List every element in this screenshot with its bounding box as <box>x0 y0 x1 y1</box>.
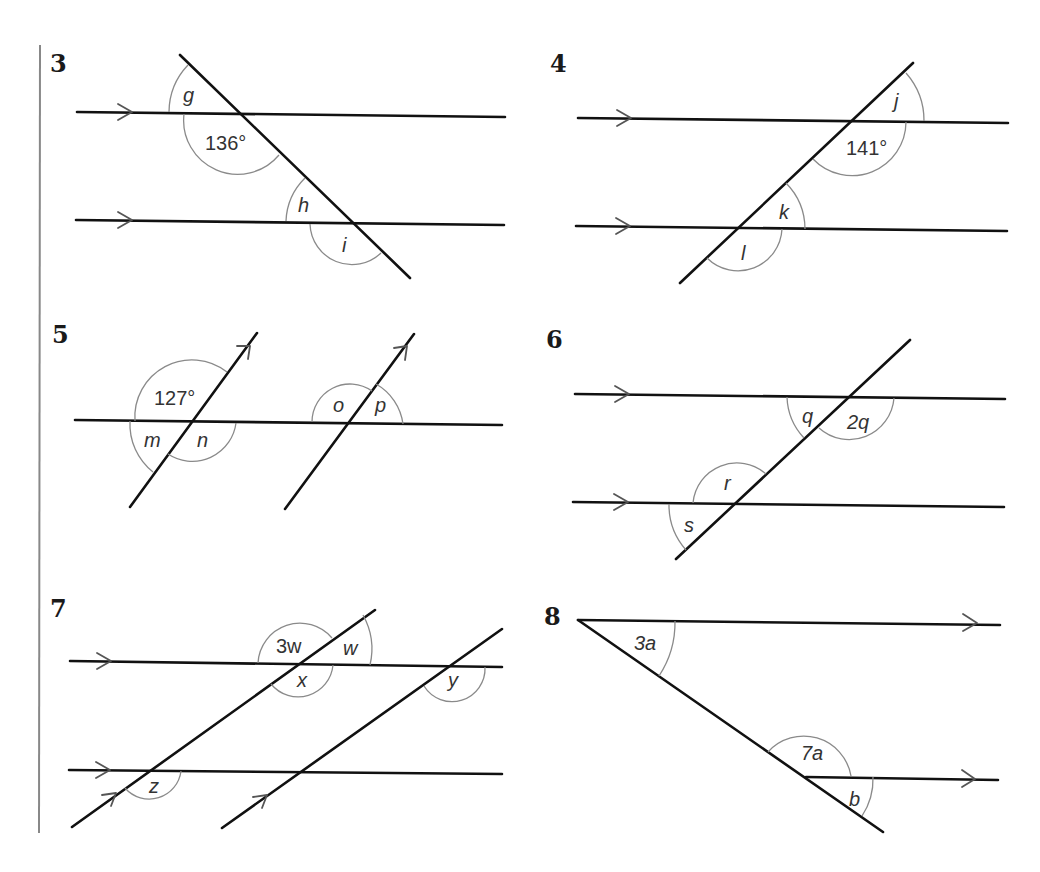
angle-label-l: l <box>741 242 746 264</box>
question-6: 6 q 2q r s <box>546 325 1005 559</box>
angle-label-given: 127° <box>154 387 195 409</box>
angle-arc-w <box>363 615 372 665</box>
parallel-arrow-icon <box>963 614 977 631</box>
angle-label-x: x <box>296 669 308 691</box>
horizontal-line <box>75 420 502 425</box>
angle-label-k: k <box>779 201 790 223</box>
question-number: 3 <box>50 49 67 78</box>
ray-top <box>578 620 1000 625</box>
parallel-line-top <box>575 394 1005 399</box>
angle-label-given: 136° <box>205 132 246 154</box>
angle-label-7a: 7a <box>801 742 823 764</box>
parallel-line-bottom <box>69 770 502 774</box>
question-number: 4 <box>550 49 567 78</box>
angle-label-i: i <box>342 234 347 256</box>
angle-label-3w: 3w <box>276 635 302 657</box>
angle-arc-3a <box>659 621 675 676</box>
question-number: 5 <box>52 320 69 349</box>
question-number: 6 <box>546 325 563 354</box>
transversal <box>578 620 883 832</box>
angle-label-given: 141° <box>846 137 887 159</box>
angle-arc-b <box>862 777 873 816</box>
transversal-left <box>72 610 375 827</box>
angle-label-j: j <box>891 90 899 112</box>
angle-label-y: y <box>446 669 459 691</box>
angle-label-2q: 2q <box>846 411 869 433</box>
angle-label-n: n <box>197 429 208 451</box>
angle-label-z: z <box>148 775 159 797</box>
transversal <box>180 55 410 278</box>
angle-label-w: w <box>343 637 359 659</box>
transversal <box>676 340 910 559</box>
angle-label-q: q <box>802 405 813 427</box>
question-4: 4 j 141° k l <box>550 49 1008 283</box>
parallel-line-top <box>578 118 1008 123</box>
question-8: 8 3a 7a b <box>544 602 1000 832</box>
parallel-line-bottom <box>576 226 1007 231</box>
parallel-line-bottom <box>573 502 1004 507</box>
question-5: 5 127° m n o p <box>52 320 502 509</box>
parallel-line-top <box>77 112 505 117</box>
margin-bar <box>39 45 40 833</box>
question-7: 7 3w w x y z <box>50 594 502 828</box>
transversal-right <box>222 629 502 828</box>
angle-label-o: o <box>333 394 344 416</box>
angle-label-s: s <box>684 514 694 536</box>
transversal <box>680 63 913 283</box>
ray-bottom <box>806 777 998 780</box>
angle-label-m: m <box>144 429 161 451</box>
question-number: 8 <box>544 602 561 631</box>
exercise-page: 3 g 136° h i 4 j 141° k <box>0 0 1040 872</box>
angle-label-h: h <box>298 194 309 216</box>
parallel-line-top <box>70 661 502 667</box>
angle-label-r: r <box>724 472 732 494</box>
question-3: 3 g 136° h i <box>50 49 505 278</box>
angle-label-g: g <box>183 84 194 106</box>
parallel-line-bottom <box>76 220 504 225</box>
angle-label-3a: 3a <box>634 632 656 654</box>
angle-label-p: p <box>374 394 386 416</box>
question-number: 7 <box>50 594 67 623</box>
angle-label-b: b <box>849 788 860 810</box>
angle-arc-j <box>906 73 924 121</box>
